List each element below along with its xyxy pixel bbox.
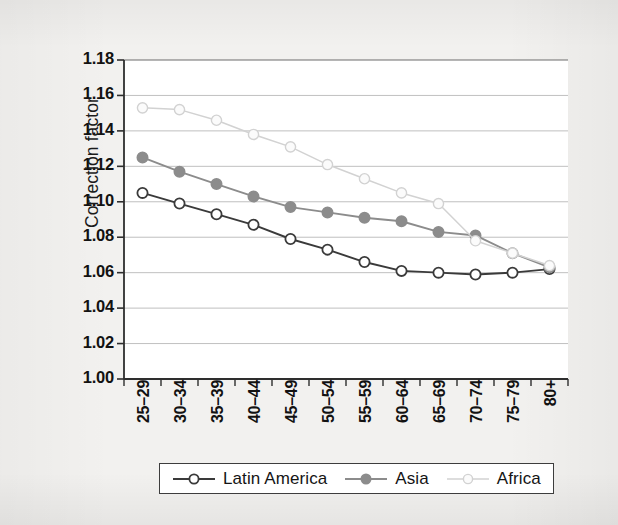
legend-marker-icon bbox=[446, 471, 490, 487]
legend-marker-icon bbox=[172, 471, 216, 487]
y-axis-title: Correction factor bbox=[82, 53, 103, 273]
series-africa bbox=[137, 103, 554, 271]
legend-label: Asia bbox=[395, 469, 428, 489]
y-tick-label: 1.00 bbox=[60, 368, 114, 387]
legend-label: Latin America bbox=[223, 469, 327, 489]
y-tick-label: 1.02 bbox=[60, 333, 114, 352]
x-axis-tick-labels: 25–2930–3435–3940–4445–4950–5455–5960–64… bbox=[124, 386, 568, 466]
x-tick-label: 70–74 bbox=[468, 380, 486, 460]
x-tick-label: 45–49 bbox=[283, 380, 301, 460]
x-tick-label: 50–54 bbox=[320, 380, 338, 460]
legend-marker-icon bbox=[344, 471, 388, 487]
x-tick-label: 30–34 bbox=[172, 380, 190, 460]
chart-figure: 1.181.161.141.121.101.081.061.041.021.00… bbox=[0, 0, 618, 525]
x-tick-label: 75–79 bbox=[505, 380, 523, 460]
x-tick-label: 35–39 bbox=[209, 380, 227, 460]
series-asia bbox=[137, 152, 554, 272]
gridlines bbox=[124, 60, 568, 379]
chart-legend: Latin AmericaAsiaAfrica bbox=[159, 463, 554, 494]
x-tick-label: 25–29 bbox=[135, 380, 153, 460]
legend-item-africa[interactable]: Africa bbox=[446, 469, 541, 489]
x-tick-label: 55–59 bbox=[357, 380, 375, 460]
x-tick-label: 80+ bbox=[542, 380, 560, 460]
legend-label: Africa bbox=[497, 469, 541, 489]
x-tick-label: 65–69 bbox=[431, 380, 449, 460]
legend-item-latin-america[interactable]: Latin America bbox=[172, 469, 327, 489]
x-tick-label: 60–64 bbox=[394, 380, 412, 460]
x-tick-label: 40–44 bbox=[246, 380, 264, 460]
legend-item-asia[interactable]: Asia bbox=[344, 469, 428, 489]
y-tick-label: 1.04 bbox=[60, 297, 114, 316]
